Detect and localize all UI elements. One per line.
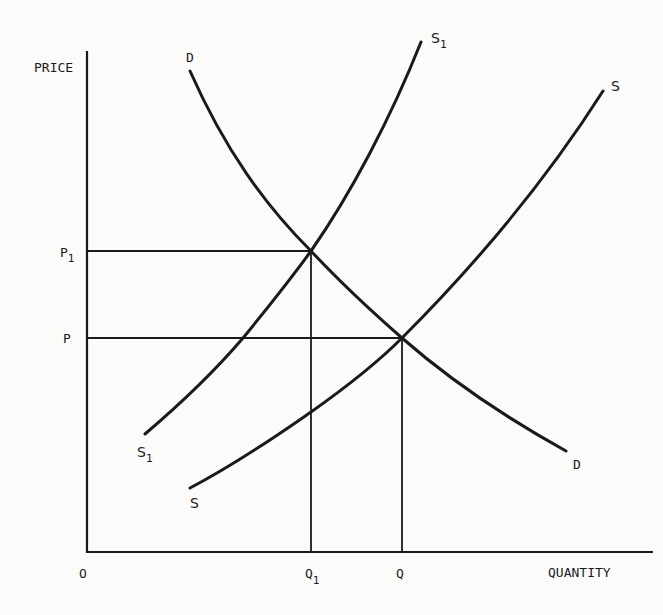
q-label: Q — [396, 566, 404, 581]
s1-top-label-sub: 1 — [440, 38, 447, 51]
q1-label-sub: 1 — [313, 574, 320, 587]
s1-bottom-label-base: S — [137, 444, 146, 460]
q1-label-base: Q — [305, 566, 313, 581]
demand-bottom-label: D — [573, 457, 581, 472]
p-label: P — [63, 331, 71, 346]
demand-top-label: D — [186, 50, 194, 65]
p1-label: P1 — [60, 245, 74, 265]
s1-top-label: S1 — [431, 30, 447, 51]
price-axis-label: PRICE — [34, 60, 73, 75]
supply-curve-s1 — [145, 42, 421, 434]
p1-label-base: P — [60, 245, 68, 260]
s-bottom-label: S — [190, 495, 199, 511]
q1-label: Q1 — [305, 566, 319, 587]
s1-top-label-base: S — [431, 30, 440, 46]
s1-bottom-label: S1 — [137, 444, 153, 465]
supply-demand-diagram: PRICE QUANTITY O P1 P Q1 Q D D S1 S1 S S — [0, 0, 663, 615]
quantity-axis-label: QUANTITY — [548, 565, 611, 580]
origin-label: O — [79, 566, 87, 581]
s-top-label: S — [611, 78, 620, 94]
p1-label-sub: 1 — [68, 252, 75, 265]
demand-curve — [190, 71, 566, 451]
s1-bottom-label-sub: 1 — [146, 452, 153, 465]
supply-curve-s — [190, 91, 603, 488]
